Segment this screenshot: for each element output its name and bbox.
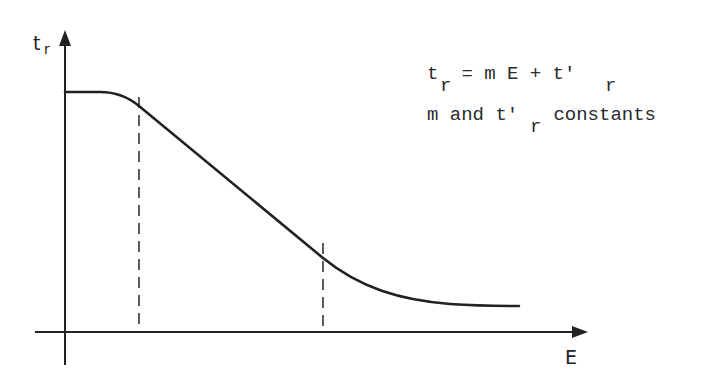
y-axis-label: t [33, 32, 40, 54]
y-axis-arrow-icon [59, 30, 71, 46]
equation-body: = m E + t' [450, 63, 575, 85]
diagram-canvas: t r E t r = m E + t' r m and t' r consta… [0, 0, 711, 390]
constants-note-subscript: r [530, 116, 541, 138]
constants-note-end: constants [542, 104, 656, 126]
equation-lhs: t [427, 63, 438, 85]
y-axis-label-subscript: r [44, 41, 50, 57]
x-axis-label: E [565, 346, 577, 368]
equation-rhs-subscript: r [605, 75, 616, 97]
x-axis-arrow-icon [572, 326, 588, 338]
constants-note-start: m and t' [427, 104, 518, 126]
